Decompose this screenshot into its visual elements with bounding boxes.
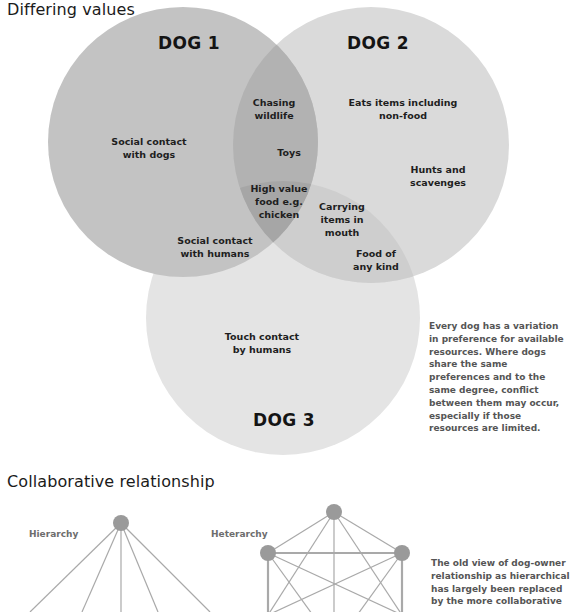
- heterarchy-left-node: [260, 545, 276, 561]
- relationship-note: The old view of dog-owner relationship a…: [431, 557, 573, 608]
- heterarchy-diagram: [268, 512, 402, 612]
- heterarchy-right-node: [394, 545, 410, 561]
- heterarchy-label: Heterarchy: [211, 529, 268, 539]
- hierarchy-top-node: [113, 515, 129, 531]
- heterarchy-top-node: [326, 504, 342, 520]
- hierarchy-label: Hierarchy: [29, 529, 78, 539]
